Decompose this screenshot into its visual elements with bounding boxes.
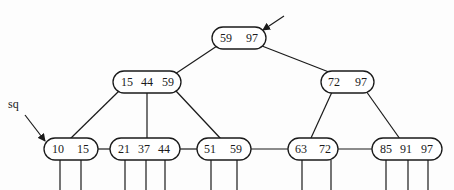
tree-edge [262,46,334,74]
node-key: 97 [421,142,433,156]
node-leaf-5: 859197 [372,138,442,160]
tree-edge [366,91,400,139]
tree-canvas: 59971544597297101521374451596372859197 s… [0,0,454,190]
node-root: 5997 [212,27,266,49]
node-key: 97 [246,31,258,45]
record-pointers [60,160,428,190]
node-key: 44 [158,142,170,156]
node-key: 72 [328,75,340,89]
sq-label: sq [8,97,19,111]
node-key: 51 [204,142,216,156]
tree-edge [175,46,217,74]
node-key: 72 [319,142,331,156]
bplus-tree-diagram: 59971544597297101521374451596372859197 s… [0,0,454,190]
node-key: 59 [220,31,232,45]
node-key: 21 [118,142,130,156]
tree-edge [311,92,332,138]
tree-edge [70,91,119,139]
sq-pointer-arrow-icon [25,115,45,141]
node-internal-right: 7297 [321,71,374,93]
node-leaf-3: 5159 [197,138,251,160]
node-key: 63 [295,142,307,156]
node-key: 15 [121,75,133,89]
node-key: 97 [355,75,367,89]
node-key: 91 [400,142,412,156]
root-pointer-arrow-icon [263,16,284,30]
node-key: 44 [141,75,153,89]
node-key: 85 [380,142,392,156]
node-leaf-2: 213744 [110,138,180,160]
node-key: 37 [138,142,150,156]
tree-nodes: 59971544597297101521374451596372859197 [44,27,442,160]
node-leaf-1: 1015 [44,138,98,160]
node-internal-left: 154459 [113,71,181,93]
node-key: 10 [52,142,64,156]
node-key: 59 [162,75,174,89]
tree-edge [176,91,221,139]
node-key: 15 [77,142,89,156]
node-key: 59 [230,142,242,156]
node-leaf-4: 6372 [288,138,338,160]
